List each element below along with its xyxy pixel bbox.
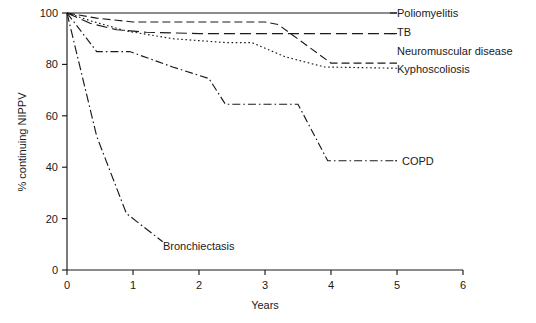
- x-tick-label-0: 0: [64, 279, 70, 291]
- x-axis-tick-labels: 0123456: [64, 279, 466, 291]
- y-axis-tick-labels: 020406080100: [40, 7, 58, 276]
- y-tick-label-20: 20: [46, 213, 58, 225]
- label-leader-lines: [390, 13, 397, 161]
- series-label-bronchiectasis: Bronchiectasis: [163, 240, 235, 252]
- series-line-tb: [67, 13, 397, 34]
- y-axis-title: % continuing NIPPV: [16, 92, 28, 192]
- series-line-bronchiectasis: [67, 13, 163, 242]
- y-tick-label-40: 40: [46, 161, 58, 173]
- series-label-tb: TB: [397, 26, 411, 38]
- series-label-neuromuscular-disease: Neuromuscular disease: [397, 45, 513, 57]
- x-axis-ticks: [67, 270, 463, 275]
- x-tick-label-3: 3: [262, 279, 268, 291]
- series-label-kyphoscoliosis: Kyphoscoliosis: [397, 63, 470, 75]
- y-axis-ticks: [62, 13, 67, 270]
- line-chart: 020406080100 0123456 % continuing NIPPV …: [0, 0, 536, 323]
- series-labels-group: PoliomyelitisTBNeuromuscular diseaseKyph…: [163, 7, 513, 252]
- y-tick-label-100: 100: [40, 7, 58, 19]
- chart-container: 020406080100 0123456 % continuing NIPPV …: [0, 0, 536, 323]
- x-tick-label-6: 6: [460, 279, 466, 291]
- x-axis-title: Years: [251, 299, 279, 311]
- series-line-kyphoscoliosis: [67, 13, 397, 68]
- y-tick-label-80: 80: [46, 58, 58, 70]
- y-tick-label-0: 0: [52, 264, 58, 276]
- x-tick-label-1: 1: [130, 279, 136, 291]
- series-line-neuromuscular-disease: [67, 13, 397, 63]
- x-tick-label-2: 2: [196, 279, 202, 291]
- x-tick-label-5: 5: [394, 279, 400, 291]
- x-tick-label-4: 4: [328, 279, 334, 291]
- series-label-copd: COPD: [402, 155, 434, 167]
- series-paths-group: [67, 13, 397, 242]
- series-line-copd: [67, 13, 397, 161]
- series-label-poliomyelitis: Poliomyelitis: [397, 7, 459, 19]
- y-tick-label-60: 60: [46, 110, 58, 122]
